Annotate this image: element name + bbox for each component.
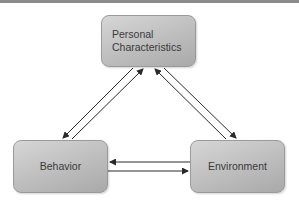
node-personal-characteristics: Personal Characteristics — [101, 15, 196, 67]
top-border-bar — [0, 0, 299, 3]
arrow-behavior-to-personal — [72, 69, 143, 139]
arrow-personal-to-behavior — [63, 68, 133, 138]
node-label-environment: Environment — [208, 160, 267, 173]
node-label-behavior: Behavior — [40, 160, 81, 173]
node-label-personal: Personal Characteristics — [112, 28, 181, 54]
arrow-environment-to-personal — [155, 69, 226, 139]
arrow-personal-to-environment — [164, 68, 236, 138]
node-behavior: Behavior — [13, 140, 108, 193]
node-environment: Environment — [190, 140, 285, 193]
